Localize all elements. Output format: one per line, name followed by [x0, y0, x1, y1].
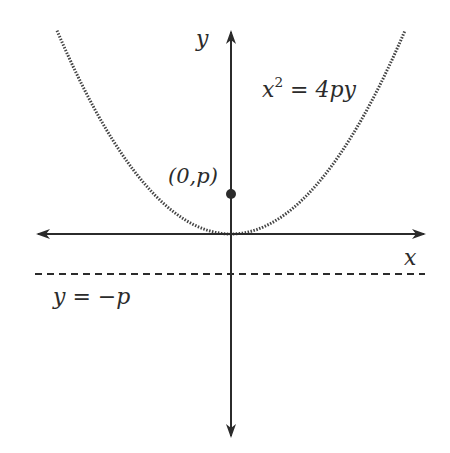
equation-rest: = 4py	[283, 77, 356, 102]
parabola-diagram: y x x2 = 4py (0,p) y = −p	[0, 0, 450, 453]
equation-label: x2 = 4py	[262, 76, 356, 102]
focus-label: (0,p)	[168, 164, 218, 188]
equation-exponent: 2	[274, 74, 283, 90]
y-axis-label: y	[196, 26, 208, 51]
directrix-label: y = −p	[53, 284, 130, 309]
equation-base: x	[262, 77, 274, 102]
x-axis-label: x	[404, 245, 416, 270]
focus-point	[226, 189, 236, 199]
